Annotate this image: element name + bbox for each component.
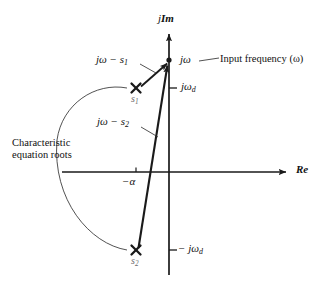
imaginary-axis-label-im: Im — [161, 12, 174, 24]
vector-s2-subscript: 2 — [125, 120, 129, 129]
real-axis-label-re: Re — [296, 163, 308, 175]
pole-s2-marker — [132, 246, 141, 255]
input-frequency-point-label: jω — [180, 53, 191, 65]
omega-d-pos-subscript: d — [192, 85, 196, 94]
vector-s2-main: jω − s — [97, 115, 125, 127]
vector-jw-minus-s2-arrow — [139, 66, 168, 249]
omega-d-neg-subscript: d — [199, 247, 203, 256]
leader-input-frequency — [199, 58, 219, 61]
pole-s1-subscript: 1 — [135, 98, 139, 106]
leader-char-roots-upper — [57, 87, 127, 140]
pole-s2-label: s2 — [131, 255, 139, 268]
omega-d-positive-label: jωd — [181, 80, 196, 95]
omega-d-negative-label: − jωd — [178, 242, 203, 257]
input-frequency-callout-label: Input frequency (ω) — [220, 53, 303, 65]
char-roots-line-1: Characteristic — [12, 137, 72, 149]
minus-alpha-label: −α — [122, 175, 135, 187]
pole-s2-subscript: 2 — [135, 260, 139, 268]
pole-s1-marker — [132, 84, 141, 93]
omega-d-neg-main: − jω — [178, 242, 199, 254]
vector-jw-minus-s2-label: jω − s2 — [97, 115, 129, 130]
input-frequency-point-dot — [166, 57, 171, 62]
vector-s1-main: jω − s — [96, 53, 124, 65]
imaginary-axis-label: jIm — [158, 12, 174, 24]
vector-jw-minus-s1-label: jω − s1 — [96, 53, 128, 68]
omega-d-pos-main: jω — [181, 80, 192, 92]
leader-vector-s1 — [140, 64, 156, 73]
vector-s1-subscript: 1 — [124, 58, 128, 67]
leader-vector-s2 — [141, 127, 158, 137]
characteristic-equation-roots-label: Characteristic equation roots — [12, 137, 72, 161]
pole-s1-label: s1 — [131, 93, 139, 106]
char-roots-line-2: equation roots — [12, 149, 72, 161]
jomega-omega: ω — [183, 53, 191, 65]
real-axis-label: Re — [296, 163, 308, 175]
figure-canvas: jIm Re jω Input frequency (ω) jω − s1 jω… — [0, 0, 323, 286]
